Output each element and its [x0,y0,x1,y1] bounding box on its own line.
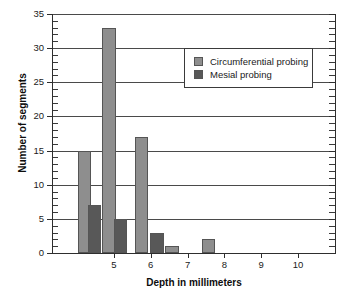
y-tick-right-35 [329,14,336,15]
y-minor-tick-left-26 [53,75,58,76]
x-tick-label-7: 7 [185,260,190,270]
y-minor-tick-left-14 [53,157,58,158]
y-tick-0 [47,253,53,254]
y-minor-tick-left-18 [53,130,58,131]
gridline-y-20 [53,116,335,117]
y-tick-30 [47,48,53,49]
y-tick-15 [47,151,53,152]
x-tick-6 [151,253,152,258]
y-minor-tick-left-16 [53,144,58,145]
y-tick-label-10: 10 [33,180,44,190]
y-minor-tick-left-13 [53,164,58,165]
y-minor-tick-right-7 [329,205,335,206]
gridline-y-35 [53,14,335,15]
y-minor-tick-right-4 [329,226,335,227]
legend-label-mesial-probing: Mesial probing [210,70,272,80]
y-minor-tick-left-22 [53,103,58,104]
x-tick-9 [261,253,262,258]
y-tick-right-5 [329,219,336,220]
y-minor-tick-right-2 [329,239,335,240]
y-minor-tick-right-13 [329,164,335,165]
y-minor-tick-right-23 [329,96,335,97]
y-tick-right-25 [329,82,336,83]
y-minor-tick-left-29 [53,55,58,56]
y-tick-right-10 [329,185,336,186]
y-tick-right-15 [329,151,336,152]
bar-circumferential-probing-2 [135,137,149,253]
y-tick-10 [47,185,53,186]
y-minor-tick-left-33 [53,28,58,29]
y-minor-tick-right-11 [329,178,335,179]
y-minor-tick-left-17 [53,137,58,138]
y-tick-label-30: 30 [33,43,44,53]
x-tick-5 [114,253,115,258]
x-tick-label-5: 5 [111,260,116,270]
y-minor-tick-right-8 [329,198,335,199]
y-minor-tick-right-18 [329,130,335,131]
y-tick-5 [47,219,53,220]
x-tick-label-6: 6 [148,260,153,270]
y-minor-tick-left-27 [53,69,58,70]
y-minor-tick-left-8 [53,198,58,199]
y-tick-20 [47,116,53,117]
legend-swatch-circumferential-probing [194,57,203,66]
x-tick-label-10: 10 [293,260,304,270]
x-tick-label-8: 8 [222,260,227,270]
legend-label-circumferential-probing: Circumferential probing [210,57,308,67]
y-minor-tick-left-9 [53,192,58,193]
bar-circumferential-probing-3 [165,246,179,253]
y-minor-tick-left-32 [53,34,58,35]
y-minor-tick-left-1 [53,246,58,247]
legend-swatch-mesial-probing [194,70,203,79]
y-tick-label-15: 15 [33,146,44,156]
y-axis-title: Number of segments [18,48,28,198]
y-minor-tick-left-7 [53,205,58,206]
y-minor-tick-right-26 [329,75,335,76]
bar-circumferential-probing-4 [202,239,216,253]
y-minor-tick-right-27 [329,69,335,70]
y-minor-tick-right-22 [329,103,335,104]
chart-legend: Circumferential probing Mesial probing [184,48,313,88]
y-minor-tick-left-31 [53,41,58,42]
y-minor-tick-right-34 [329,21,335,22]
y-minor-tick-right-16 [329,144,335,145]
y-tick-label-20: 20 [33,112,44,122]
y-minor-tick-right-14 [329,157,335,158]
bar-chart: 051015202530355678910 Depth in millimete… [0,0,352,296]
y-minor-tick-right-3 [329,233,335,234]
y-minor-tick-right-33 [329,28,335,29]
y-tick-35 [47,14,53,15]
gridline-y-10 [53,185,335,186]
bar-mesial-probing-2 [150,233,164,253]
legend-item-mesial-probing: Mesial probing [194,68,304,81]
y-tick-right-0 [329,253,336,254]
y-minor-tick-left-4 [53,226,58,227]
y-minor-tick-left-3 [53,233,58,234]
y-minor-tick-right-19 [329,123,335,124]
y-minor-tick-right-17 [329,137,335,138]
y-minor-tick-right-31 [329,41,335,42]
legend-item-circumferential-probing: Circumferential probing [194,55,304,68]
gridline-y-15 [53,151,335,152]
y-minor-tick-right-1 [329,246,335,247]
y-tick-right-30 [329,48,336,49]
y-tick-label-25: 25 [33,78,44,88]
y-minor-tick-left-24 [53,89,58,90]
y-minor-tick-right-32 [329,34,335,35]
y-tick-right-20 [329,116,336,117]
x-tick-7 [188,253,189,258]
y-minor-tick-left-23 [53,96,58,97]
y-minor-tick-left-11 [53,178,58,179]
x-tick-10 [298,253,299,258]
y-minor-tick-right-24 [329,89,335,90]
bar-mesial-probing-0 [88,205,102,253]
x-tick-label-9: 9 [259,260,264,270]
y-minor-tick-right-9 [329,192,335,193]
y-minor-tick-left-28 [53,62,58,63]
y-minor-tick-left-21 [53,110,58,111]
y-minor-tick-right-29 [329,55,335,56]
y-minor-tick-right-12 [329,171,335,172]
y-minor-tick-left-2 [53,239,58,240]
y-minor-tick-left-19 [53,123,58,124]
y-tick-label-5: 5 [39,214,44,224]
